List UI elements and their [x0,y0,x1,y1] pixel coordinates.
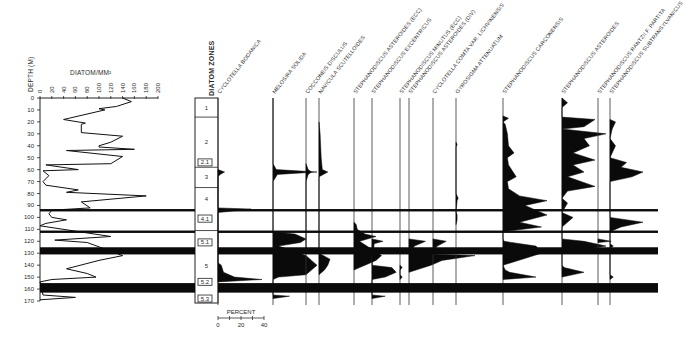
taxa-columns: CYCLOTELLA BODANICAMELOSIRA SOLIDACOCCON… [216,0,684,305]
taxon-label: STEPHANODISCUS SUBTRANSYLVANICUS [608,0,684,95]
taxon-silhouette [610,119,643,279]
percent-scale: PERCENT02040 [216,309,268,328]
conc-tick-label: 100 [96,82,102,93]
depth-tick-label: 130 [24,250,35,256]
concentration-profile [40,98,146,300]
depth-tick-label: 120 [24,238,35,244]
depth-tick-label: 30 [27,131,34,137]
conc-tick-label: 60 [72,86,78,93]
zone-label: 4 [205,196,209,202]
band-left [40,209,195,211]
band-right [218,283,658,293]
depth-tick-label: 110 [24,226,34,232]
conc-tick-label: 20 [49,86,55,93]
percent-label: PERCENT [227,309,256,315]
concentration-axis: 020406080100120140160180200 [37,82,161,99]
depth-tick-label: 70 [27,179,34,185]
taxon-silhouette [354,222,382,270]
taxon-silhouette [598,239,611,243]
conc-tick-label: 180 [143,82,149,93]
conc-tick-label: 0 [37,89,43,93]
diatom-zones-column: 122.1344.155.15.25.3 [195,98,218,303]
depth-tick-label: 170 [24,298,35,304]
band-left [40,283,195,293]
taxon-label: GYROSIGMA ATTENUATUM [454,33,504,95]
depth-tick-label: 50 [27,155,34,161]
subzone-label: 5.3 [201,296,210,302]
band-left [40,247,195,254]
taxon-column: GYROSIGMA ATTENUATUM [454,33,504,305]
zone-label: 2 [205,139,209,145]
conc-tick-label: 140 [120,82,126,93]
depth-tick-label: 150 [24,274,35,280]
percent-tick-label: 0 [216,322,220,328]
depth-tick-label: 60 [27,167,34,173]
conc-tick-label: 120 [108,82,114,93]
chart-svg: 0102030405060708090100110120130140150160… [0,0,699,339]
taxon-column: STEPHANODISCUS CARCONENSIS [501,16,564,305]
band-right [218,247,658,254]
band-right [218,209,658,211]
depth-tick-label: 140 [24,262,35,268]
zones-title: DIATOM ZONES [208,40,215,96]
zone-label: 3 [205,174,209,180]
depth-tick-label: 20 [27,119,34,125]
taxon-silhouette [503,116,547,280]
band-left [40,231,195,233]
taxon-column: STEPHANODISCUS SUBTRANSYLVANICUS [608,0,684,305]
percent-tick-label: 20 [238,322,245,328]
concentration-line [40,98,146,300]
taxon-label: STEPHANODISCUS RANTZII F. PARTITA [596,7,666,95]
depth-axis-label: DEPTH (M) [27,57,35,92]
zone-label: 5 [205,263,209,269]
subzone-label: 5.2 [201,279,210,285]
taxon-column: CYCLOTELLA BODANICA [216,38,262,305]
subzone-label: 5.1 [201,239,210,245]
subzone-label: 4.1 [201,216,210,222]
depth-tick-label: 160 [24,286,35,292]
depth-tick-label: 100 [24,214,35,220]
taxon-label: STEPHANODISCUS ASTEROIDES [560,20,620,95]
taxon-silhouette [306,164,312,254]
taxon-column: STEPHANODISCUS RANTZII F. PARTITA [596,7,666,305]
depth-axis: 0102030405060708090100110120130140150160… [24,95,40,304]
conc-tick-label: 40 [61,86,67,93]
depth-tick-label: 40 [27,143,34,149]
subzone-label: 2.1 [201,159,210,165]
diatom-diagram: 0102030405060708090100110120130140150160… [0,0,699,339]
taxon-label: MELOSIRA SOLIDA [271,50,307,94]
conc-tick-label: 80 [84,86,90,93]
depth-tick-label: 90 [27,202,34,208]
taxon-label: STEPHANODISCUS CARCONENSIS [501,16,564,95]
zone-label: 1 [205,105,209,111]
concentration-title: DIATOM/MM² [70,69,112,76]
conc-tick-label: 160 [131,82,137,93]
taxon-silhouette [218,170,262,282]
depth-tick-label: 0 [31,95,35,101]
taxon-silhouette [409,239,475,272]
depth-tick-label: 10 [27,107,34,113]
conc-tick-label: 200 [155,82,161,93]
taxon-label: CYCLOTELLA BODANICA [216,38,262,95]
taxon-silhouette [273,98,317,299]
depth-tick-label: 80 [27,191,34,197]
band-right [218,231,658,233]
percent-tick-label: 40 [261,322,268,328]
